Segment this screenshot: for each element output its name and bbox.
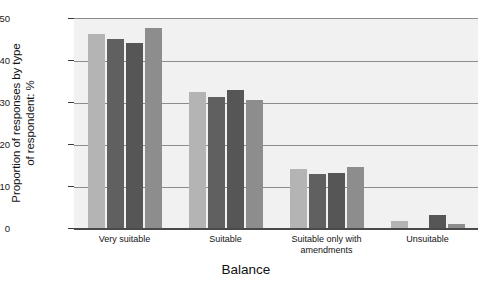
y-axis-title: Proportion of responses by type of respo… (0, 14, 46, 232)
category-label-2: Suitable only withamendments (276, 234, 377, 256)
bar-group-1 (175, 19, 276, 229)
category-label-1: Suitable (175, 234, 276, 245)
bar (246, 100, 263, 229)
bar (208, 97, 225, 229)
bar (347, 167, 364, 229)
bar-chart-figure: Proportion of responses by type of respo… (0, 0, 492, 284)
bar (429, 215, 446, 229)
bar-group-2 (276, 19, 377, 229)
plot-area (74, 18, 478, 229)
x-axis-title: Balance (0, 262, 492, 277)
y-tick-label-20: 20 (0, 139, 10, 150)
x-axis-baseline (74, 228, 478, 230)
bar (88, 34, 105, 229)
y-axis-title-line1: Proportion of responses by type (10, 43, 22, 202)
y-tick-label-0: 0 (0, 223, 10, 234)
category-label-line: amendments (276, 245, 377, 256)
bar-group-0 (74, 19, 175, 229)
bar (189, 92, 206, 229)
y-tick-label-10: 10 (0, 181, 10, 192)
category-label-0: Very suitable (74, 234, 175, 245)
y-tick-label-40: 40 (0, 55, 10, 66)
category-label-line: Unsuitable (377, 234, 478, 245)
bar (126, 43, 143, 229)
bar-group-3 (377, 19, 478, 229)
y-axis-title-line2: of respondent: % (23, 43, 37, 202)
bar (328, 173, 345, 229)
category-label-line: Suitable (175, 234, 276, 245)
y-tick-label-50: 50 (0, 13, 10, 24)
bar (309, 174, 326, 229)
bar (227, 90, 244, 229)
bar (107, 39, 124, 229)
plot-inner (74, 19, 478, 229)
category-label-line: Very suitable (74, 234, 175, 245)
y-tick-label-30: 30 (0, 97, 10, 108)
bar (290, 169, 307, 229)
category-label-3: Unsuitable (377, 234, 478, 245)
bar (145, 28, 162, 229)
category-label-line: Suitable only with (276, 234, 377, 245)
